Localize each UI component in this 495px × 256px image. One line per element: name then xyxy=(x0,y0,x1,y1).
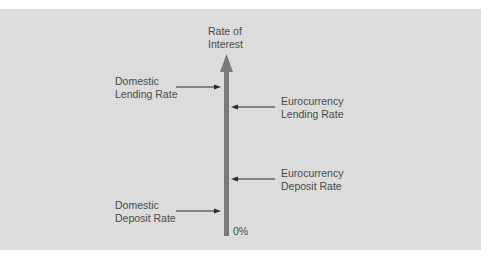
zero-percent-label: 0% xyxy=(233,225,248,238)
euro-lending-pointer-arrow xyxy=(231,105,275,110)
euro-deposit-pointer-arrow xyxy=(231,177,275,182)
euro-lending-line1: Eurocurrency xyxy=(281,95,343,108)
domestic-lending-label: Domestic Lending Rate xyxy=(115,75,177,101)
euro-lending-line2: Lending Rate xyxy=(281,108,343,121)
euro-lending-label: Eurocurrency Lending Rate xyxy=(281,95,343,121)
rate-axis-arrow xyxy=(220,54,233,236)
axis-title: Rate of Interest xyxy=(208,25,243,51)
axis-title-line1: Rate of xyxy=(208,25,243,38)
domestic-deposit-line1: Domestic xyxy=(115,199,176,212)
axis-title-line2: Interest xyxy=(208,38,243,51)
euro-deposit-line1: Eurocurrency xyxy=(281,167,343,180)
domestic-lending-line2: Lending Rate xyxy=(115,88,177,101)
domestic-deposit-label: Domestic Deposit Rate xyxy=(115,199,176,225)
euro-deposit-line2: Deposit Rate xyxy=(281,180,343,193)
domestic-lending-pointer-arrow xyxy=(176,85,221,90)
domestic-lending-line1: Domestic xyxy=(115,75,177,88)
domestic-deposit-line2: Deposit Rate xyxy=(115,212,176,225)
domestic-deposit-pointer-arrow xyxy=(176,209,221,214)
interest-rate-diagram xyxy=(0,0,495,256)
euro-deposit-label: Eurocurrency Deposit Rate xyxy=(281,167,343,193)
